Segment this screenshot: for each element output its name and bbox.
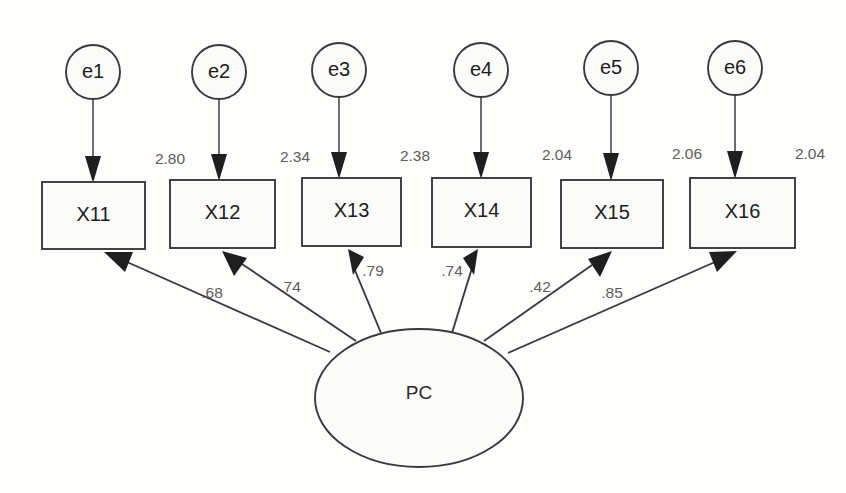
error-node-e1[interactable]: e1	[66, 45, 120, 99]
indicator-node-X12[interactable]: X12	[170, 180, 275, 248]
loading-arrow-X12	[222, 251, 356, 341]
indicator-label-X12: X12	[205, 201, 241, 223]
error-variance-labels-group: 2.80 2.34 2.38 2.04 2.06 2.04	[155, 145, 826, 167]
error-label-e4: e4	[470, 58, 492, 80]
loading-label-X14: .74	[441, 262, 463, 279]
error-label-e2: e2	[208, 60, 230, 82]
latent-factor-label: PC	[406, 382, 432, 403]
latent-factor-node[interactable]: PC	[315, 329, 523, 467]
loading-arrow-X16	[508, 251, 737, 353]
error-variance-label-e2: 2.34	[280, 148, 311, 165]
indicator-label-X16: X16	[725, 200, 761, 222]
loading-arrowhead-X11	[104, 252, 133, 272]
residual-arrowhead-e3	[331, 152, 347, 179]
residual-arrow-e2	[211, 99, 227, 181]
error-label-e5: e5	[600, 56, 622, 78]
error-variance-label-e5: 2.06	[672, 145, 702, 162]
loading-label-X12: .74	[279, 278, 301, 295]
error-variance-label-e1: 2.80	[155, 150, 186, 167]
error-node-e2[interactable]: e2	[192, 45, 246, 99]
residual-arrowhead-e2	[211, 154, 227, 181]
loading-arrow-X11	[104, 252, 330, 352]
loading-arrow-X15	[484, 251, 612, 341]
indicator-label-X11: X11	[76, 203, 110, 225]
loading-labels-group: .68 .74 .79 .74 .42 .85	[201, 262, 623, 301]
error-label-e6: e6	[724, 56, 746, 78]
loading-arrowhead-X15	[588, 251, 612, 277]
indicator-node-X13[interactable]: X13	[302, 178, 401, 246]
residual-arrow-e6	[727, 95, 743, 179]
residual-arrowhead-e1	[85, 156, 101, 183]
indicator-nodes-group: X11 X12 X13 X14 X15 X16	[42, 178, 795, 249]
loading-arrow-line-X15	[484, 265, 592, 341]
error-node-e4[interactable]: e4	[454, 43, 508, 97]
residual-arrows-group	[85, 95, 743, 183]
loading-arrow-line-X12	[242, 264, 356, 341]
error-nodes-group: e1 e2 e3 e4 e5 e6	[66, 41, 762, 99]
residual-arrow-e1	[85, 99, 101, 183]
error-node-e3[interactable]: e3	[312, 43, 366, 97]
indicator-node-X11[interactable]: X11	[42, 182, 145, 249]
indicator-node-X15[interactable]: X15	[561, 180, 663, 248]
indicator-label-X14: X14	[464, 199, 500, 221]
error-variance-label-e3: 2.38	[400, 147, 430, 164]
indicator-node-X16[interactable]: X16	[690, 178, 795, 248]
loading-label-X16: .85	[601, 284, 623, 301]
residual-arrow-e3	[331, 97, 347, 179]
error-label-e1: e1	[82, 60, 104, 82]
loading-arrowhead-X16	[709, 251, 737, 272]
residual-arrowhead-e6	[727, 151, 743, 179]
residual-arrow-e4	[473, 97, 489, 179]
indicator-label-X13: X13	[334, 199, 370, 221]
loading-arrowhead-X12	[222, 251, 247, 276]
loading-label-X13: .79	[362, 262, 384, 279]
residual-arrowhead-e4	[473, 152, 489, 179]
sem-path-diagram: e1 e2 e3 e4 e5 e6	[0, 0, 846, 493]
indicator-node-X14[interactable]: X14	[432, 178, 531, 247]
error-node-e6[interactable]: e6	[708, 41, 762, 95]
loading-arrow-line-X16	[508, 262, 715, 353]
loading-label-X15: .42	[529, 278, 551, 295]
error-node-e5[interactable]: e5	[584, 41, 638, 95]
loading-arrow-line-X11	[127, 262, 330, 352]
residual-arrowhead-e5	[603, 153, 619, 181]
error-variance-label-e6: 2.04	[795, 145, 826, 162]
indicator-label-X15: X15	[594, 201, 630, 223]
diagram-canvas: e1 e2 e3 e4 e5 e6	[0, 0, 846, 493]
residual-arrow-e5	[603, 95, 619, 181]
loading-label-X11: .68	[201, 284, 223, 301]
error-label-e3: e3	[328, 58, 350, 80]
error-variance-label-e4: 2.04	[542, 146, 573, 163]
